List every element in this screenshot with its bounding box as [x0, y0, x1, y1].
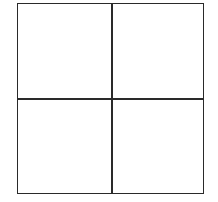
horizontal-divider — [18, 98, 203, 100]
grid-cell-bottom-left — [18, 99, 111, 192]
two-by-two-grid — [17, 3, 204, 194]
grid-cell-bottom-right — [112, 99, 203, 192]
grid-cell-top-left — [18, 4, 111, 98]
grid-cell-top-right — [112, 4, 203, 98]
